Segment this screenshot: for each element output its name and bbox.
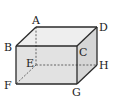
- vertex-label-A: A: [31, 14, 41, 27]
- vertex-label-B: B: [4, 41, 12, 54]
- vertex-label-C: C: [79, 46, 87, 59]
- cuboid-diagram: A B C D E F G H: [0, 0, 114, 105]
- vertex-label-E: E: [26, 57, 34, 70]
- vertex-label-F: F: [4, 79, 12, 92]
- vertex-label-D: D: [99, 21, 108, 34]
- vertex-label-G: G: [72, 86, 81, 99]
- vertex-label-H: H: [99, 59, 109, 72]
